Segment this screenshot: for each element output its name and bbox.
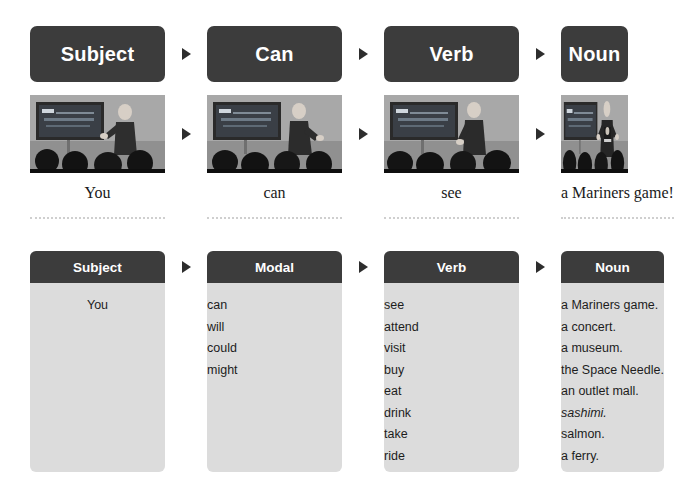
caption-dotted-rule bbox=[561, 217, 674, 219]
pattern-chip-cell-2: Can bbox=[207, 26, 342, 82]
pattern-chip-cell-4: Noun bbox=[561, 26, 628, 82]
lecture-photo-3 bbox=[384, 95, 519, 173]
list-item[interactable]: could bbox=[207, 338, 342, 360]
substitution-table: Subject You bbox=[30, 251, 165, 472]
word-list: see attend visit buy eat drink take ride bbox=[384, 295, 519, 467]
triangle-right-icon bbox=[359, 261, 368, 273]
column-header-label: Verb bbox=[437, 260, 466, 275]
photo-cell-4 bbox=[561, 95, 628, 173]
caption-gap-1 bbox=[165, 182, 207, 226]
triangle-right-icon bbox=[182, 48, 191, 60]
table-arrow-3 bbox=[519, 251, 561, 472]
substitution-table: Modal can will could might bbox=[207, 251, 342, 472]
column-header-subject: Subject bbox=[30, 251, 165, 283]
column-body-verb: see attend visit buy eat drink take ride bbox=[384, 283, 519, 472]
list-item[interactable]: the Space Needle. bbox=[561, 360, 664, 382]
caption-cell-2: can bbox=[207, 182, 342, 226]
pattern-arrow-2 bbox=[342, 26, 384, 82]
substitution-table-row: Subject You Modal can wil bbox=[30, 251, 628, 472]
list-item[interactable]: drink bbox=[384, 403, 519, 425]
triangle-right-icon bbox=[182, 128, 191, 140]
triangle-right-icon bbox=[536, 128, 545, 140]
list-item[interactable]: see bbox=[384, 295, 519, 317]
pattern-arrow-3 bbox=[519, 26, 561, 82]
pattern-chip-label: Noun bbox=[569, 43, 621, 66]
caption-dotted-rule bbox=[30, 217, 165, 219]
photo-arrow-3 bbox=[519, 95, 561, 173]
list-item[interactable]: a museum. bbox=[561, 338, 664, 360]
triangle-right-icon bbox=[182, 261, 191, 273]
photo-strip-row bbox=[30, 95, 628, 173]
list-item[interactable]: take bbox=[384, 424, 519, 446]
column-body-subject: You bbox=[30, 283, 165, 472]
list-item[interactable]: a concert. bbox=[561, 317, 664, 339]
table-arrow-2 bbox=[342, 251, 384, 472]
pattern-chip-verb[interactable]: Verb bbox=[384, 26, 519, 82]
lecture-photo-4 bbox=[561, 95, 628, 173]
caption-text: see bbox=[441, 182, 461, 204]
column-header-label: Subject bbox=[73, 260, 122, 275]
photo-cell-1 bbox=[30, 95, 165, 173]
list-item[interactable]: buy bbox=[384, 360, 519, 382]
substitution-table: Noun a Mariners game. a concert. a museu… bbox=[561, 251, 664, 472]
column-header-label: Modal bbox=[255, 260, 294, 275]
column-body-modal: can will could might bbox=[207, 283, 342, 472]
photo-arrow-1 bbox=[165, 95, 207, 173]
pattern-chip-noun[interactable]: Noun bbox=[561, 26, 628, 82]
word-list: You bbox=[30, 295, 165, 317]
substitution-column-modal: Modal can will could might bbox=[207, 251, 342, 472]
column-header-modal: Modal bbox=[207, 251, 342, 283]
pattern-chip-label: Subject bbox=[61, 43, 135, 66]
photo-cell-3 bbox=[384, 95, 519, 173]
list-item[interactable]: an outlet mall. bbox=[561, 381, 664, 403]
column-body-noun: a Mariners game. a concert. a museum. th… bbox=[561, 283, 664, 472]
list-item[interactable]: You bbox=[30, 295, 165, 317]
pattern-chip-can[interactable]: Can bbox=[207, 26, 342, 82]
caption-text: a Mariners game! bbox=[561, 182, 674, 204]
caption-row: You can see a Mariners game! bbox=[30, 182, 628, 226]
lecture-photo-2 bbox=[207, 95, 342, 173]
list-item[interactable]: will bbox=[207, 317, 342, 339]
pattern-arrow-1 bbox=[165, 26, 207, 82]
list-item[interactable]: salmon. bbox=[561, 424, 664, 446]
column-header-label: Noun bbox=[595, 260, 630, 275]
pattern-chip-cell-3: Verb bbox=[384, 26, 519, 82]
caption-gap-2 bbox=[342, 182, 384, 226]
list-item[interactable]: a Mariners game. bbox=[561, 295, 664, 317]
column-header-verb: Verb bbox=[384, 251, 519, 283]
triangle-right-icon bbox=[536, 48, 545, 60]
caption-cell-1: You bbox=[30, 182, 165, 226]
list-item[interactable]: sashimi. bbox=[561, 403, 664, 425]
triangle-right-icon bbox=[359, 128, 368, 140]
substitution-column-verb: Verb see attend visit buy eat drink take… bbox=[384, 251, 519, 472]
list-item[interactable]: visit bbox=[384, 338, 519, 360]
pattern-chip-subject[interactable]: Subject bbox=[30, 26, 165, 82]
list-item[interactable]: a ferry. bbox=[561, 446, 664, 468]
triangle-right-icon bbox=[536, 261, 545, 273]
caption-text: can bbox=[263, 182, 285, 204]
list-item[interactable]: eat bbox=[384, 381, 519, 403]
pattern-chip-cell-1: Subject bbox=[30, 26, 165, 82]
triangle-right-icon bbox=[359, 48, 368, 60]
photo-cell-2 bbox=[207, 95, 342, 173]
word-list: can will could might bbox=[207, 295, 342, 381]
caption-dotted-rule bbox=[207, 217, 342, 219]
list-item[interactable]: can bbox=[207, 295, 342, 317]
substitution-column-subject: Subject You bbox=[30, 251, 165, 472]
caption-cell-3: see bbox=[384, 182, 519, 226]
pattern-chip-label: Can bbox=[255, 43, 293, 66]
caption-gap-3 bbox=[519, 182, 561, 226]
photo-arrow-2 bbox=[342, 95, 384, 173]
substitution-column-noun: Noun a Mariners game. a concert. a museu… bbox=[561, 251, 664, 472]
column-header-noun: Noun bbox=[561, 251, 664, 283]
list-item[interactable]: ride bbox=[384, 446, 519, 468]
word-list: a Mariners game. a concert. a museum. th… bbox=[561, 295, 664, 467]
caption-cell-4: a Mariners game! bbox=[561, 182, 674, 226]
list-item[interactable]: attend bbox=[384, 317, 519, 339]
caption-dotted-rule bbox=[384, 217, 519, 219]
caption-text: You bbox=[85, 182, 111, 204]
list-item[interactable]: might bbox=[207, 360, 342, 382]
table-arrow-1 bbox=[165, 251, 207, 472]
substitution-table: Verb see attend visit buy eat drink take… bbox=[384, 251, 519, 472]
